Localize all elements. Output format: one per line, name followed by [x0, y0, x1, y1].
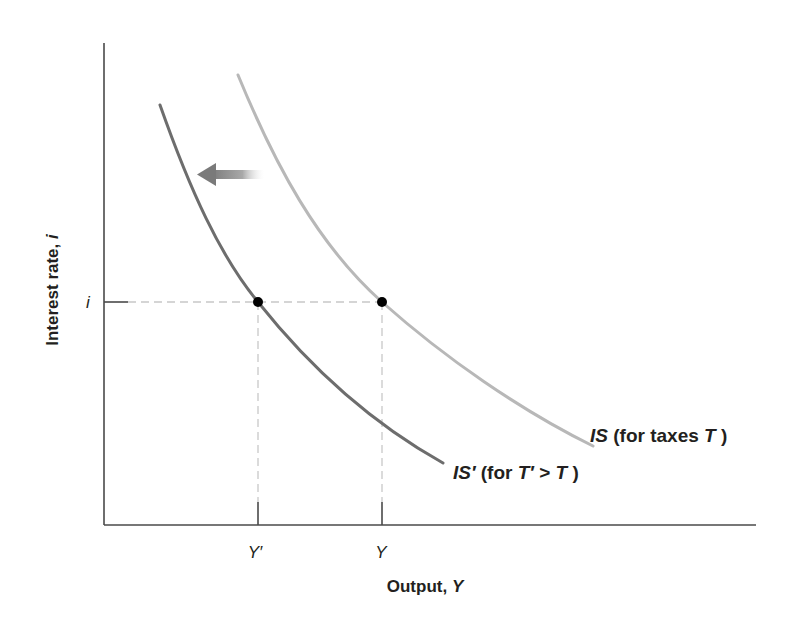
y-tick-label-i: i: [86, 293, 91, 312]
x-axis-title-var: Y: [452, 577, 465, 596]
is-curve-shift-diagram: i Y′ Y Output, Y Interest rate, i IS (fo…: [0, 0, 795, 620]
is-curve-label-text: (for taxes: [608, 425, 704, 446]
y-axis-title: Interest rate, i: [43, 233, 62, 346]
guide-lines: [128, 302, 382, 502]
equilibrium-point-is: [377, 297, 387, 307]
is-prime-curve: [160, 105, 443, 463]
y-axis-title-var: i: [43, 233, 62, 239]
axes: [104, 43, 756, 525]
is-prime-label-op: >: [534, 462, 556, 483]
is-prime-curve-label: IS′ (for T′ > T ): [453, 462, 579, 483]
is-prime-label-var1: T′: [518, 462, 536, 483]
is-prime-label-text: (for: [476, 462, 518, 483]
is-curve-label: IS (for taxes T ): [590, 425, 727, 446]
x-tick-label-yprime: Y′: [248, 543, 263, 562]
is-curve: [238, 75, 593, 446]
equilibrium-point-isprime: [253, 297, 263, 307]
x-axis-title: Output, Y: [387, 577, 465, 596]
y-axis-title-text: Interest rate,: [43, 239, 62, 346]
is-curve-label-name: IS: [590, 425, 608, 446]
is-curve-label-close: ): [716, 425, 728, 446]
is-prime-label-name: IS′: [453, 462, 477, 483]
left-shift-arrow-icon: [197, 163, 264, 186]
x-tick-label-y: Y: [375, 543, 388, 562]
is-prime-label-close: ): [567, 462, 579, 483]
x-axis-title-text: Output,: [387, 577, 452, 596]
